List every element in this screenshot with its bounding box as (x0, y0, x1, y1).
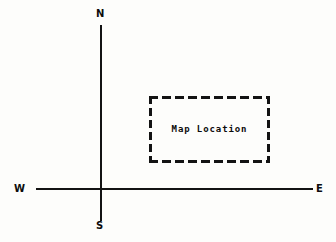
map-box-corner-top-left (149, 96, 152, 99)
map-box-corner-top-right (267, 96, 270, 99)
compass-label-east: E (316, 184, 323, 194)
map-box-corner-bottom-left (149, 160, 152, 163)
compass-label-south: S (96, 221, 103, 231)
vertical-axis-line (100, 25, 102, 221)
map-box-corner-bottom-right (267, 160, 270, 163)
map-location-diagram: N S W E Map Location (0, 0, 336, 242)
map-location-box: Map Location (149, 96, 270, 163)
compass-label-west: W (14, 184, 25, 194)
map-box-bottom-border (149, 160, 270, 163)
map-box-left-border (149, 96, 152, 163)
map-box-top-border (149, 96, 270, 99)
horizontal-axis-line (36, 188, 313, 190)
compass-label-north: N (96, 9, 104, 19)
map-location-label: Map Location (172, 124, 248, 135)
map-box-right-border (267, 96, 270, 163)
